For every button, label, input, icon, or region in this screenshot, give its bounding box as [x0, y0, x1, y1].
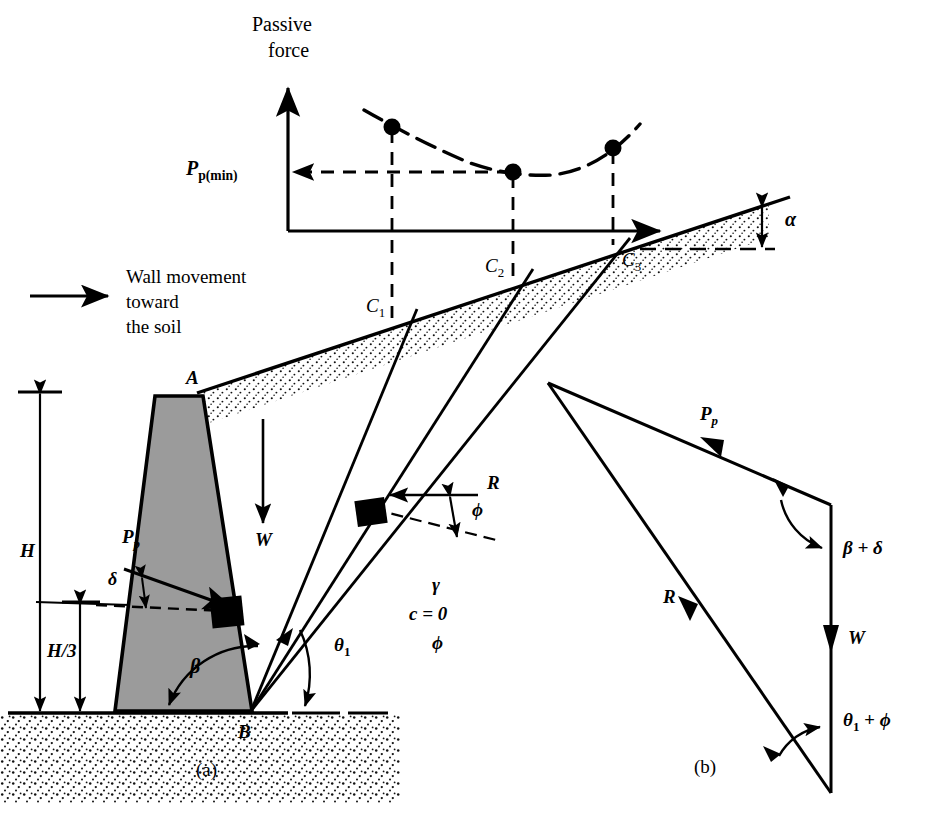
label-passive-force: Pp	[122, 527, 140, 550]
theta1-sub: 1	[344, 644, 350, 659]
label-h: H	[20, 541, 35, 560]
fp-label-theta1-phi: θ1 + ϕ	[843, 710, 891, 733]
label-c-equals-zero: c = 0	[409, 604, 447, 623]
label-phi-wedge: ϕ	[472, 500, 483, 519]
plot-ylabel-line1: Passive	[252, 14, 312, 34]
pp-min-sub: p(min)	[198, 168, 237, 183]
label-weight: W	[255, 530, 272, 549]
pp-min-label: Pp(min)	[186, 158, 238, 182]
pp-min-main: P	[186, 157, 198, 179]
fp-theta1-rest: + ϕ	[859, 709, 890, 730]
fp-label-beta-delta: β + δ	[843, 538, 883, 557]
c2-sub: 2	[498, 265, 504, 280]
theta1-phi-arc-start-arrow	[763, 746, 781, 762]
fp-label-r: R	[663, 587, 676, 606]
r-direction-arrowhead	[678, 596, 698, 621]
label-theta1: θ1	[334, 635, 350, 658]
fp-label-w: W	[848, 628, 865, 647]
label-c1: C1	[366, 296, 385, 319]
label-beta: β	[190, 656, 200, 676]
beta-delta-arc	[781, 500, 822, 548]
engineering-diagram-svg	[0, 0, 931, 823]
label-point-a: A	[186, 368, 199, 387]
pp-wall-main: P	[122, 526, 134, 547]
retaining-wall-body	[115, 396, 252, 711]
passive-force-curve	[364, 110, 640, 175]
plot-ylabel-line2: force	[268, 40, 309, 60]
fp-theta1-main: θ	[843, 709, 853, 730]
label-resultant: R	[487, 473, 500, 492]
w-direction-arrowhead	[823, 625, 839, 653]
wall-movement-line3: the soil	[126, 317, 181, 336]
label-delta: δ	[108, 570, 117, 588]
wall-movement-line2: toward	[126, 292, 179, 311]
backfill-surface-line	[197, 197, 790, 393]
pp-wall-sub: p	[134, 536, 140, 551]
fp-pp-main: P	[700, 403, 712, 424]
beta-arc-start-arrow	[244, 634, 260, 650]
label-c3: C3	[622, 250, 641, 273]
wall-movement-line1: Wall movement	[126, 267, 246, 286]
phi-angle-arrow	[450, 497, 457, 537]
label-phi-soil: ϕ	[432, 633, 443, 652]
wedge-element-block	[354, 497, 387, 527]
label-gamma: γ	[432, 575, 440, 594]
c3-sub: 3	[635, 259, 641, 274]
theta1-phi-arc	[779, 727, 820, 756]
label-c2: C2	[485, 256, 504, 279]
panel-a-label: (a)	[196, 760, 217, 779]
c1-sub: 1	[379, 305, 385, 320]
label-point-b: B	[238, 722, 251, 741]
beta-delta-arc-start-arrow	[773, 478, 789, 497]
c1-main: C	[366, 295, 379, 316]
theta1-main: θ	[334, 634, 344, 655]
c2-main: C	[485, 255, 498, 276]
fp-label-pp: Pp	[700, 404, 718, 427]
label-h-over-3: H/3	[47, 641, 77, 660]
pp-application-block	[210, 595, 245, 628]
c3-main: C	[622, 249, 635, 270]
fp-pp-sub: p	[712, 413, 718, 428]
label-alpha: α	[785, 209, 796, 229]
figure-canvas: Passive force Pp(min) Wall movement towa…	[0, 0, 931, 823]
panel-b-label: (b)	[694, 757, 716, 776]
